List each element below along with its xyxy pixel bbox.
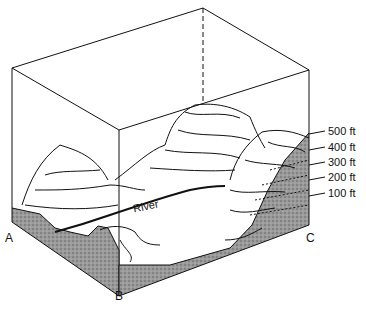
- elevation-label-100: 100 ft: [328, 188, 356, 199]
- corner-label-c: C: [306, 232, 315, 244]
- elevation-label-400: 400 ft: [328, 142, 356, 153]
- block-diagram: A B C River 500 ft 400 ft 300 ft 200 ft …: [0, 0, 366, 312]
- corner-label-a: A: [5, 232, 13, 244]
- landscape-drawing: [0, 0, 366, 312]
- front-right-section: [119, 133, 309, 296]
- elevation-label-500: 500 ft: [328, 126, 356, 137]
- elevation-label-200: 200 ft: [328, 172, 356, 183]
- box-top-edge: [12, 8, 309, 130]
- elevation-label-300: 300 ft: [328, 157, 356, 168]
- corner-label-b: B: [115, 290, 123, 302]
- front-left-section: [12, 208, 119, 296]
